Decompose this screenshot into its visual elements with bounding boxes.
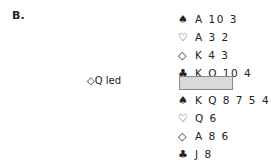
north-diamonds: ◇K 4 3: [178, 46, 252, 64]
club-icon: ♣: [178, 148, 195, 161]
south-diamonds: ◇A 8 6: [178, 127, 270, 145]
south-spades: ♠K Q 8 7 5 4: [178, 91, 270, 109]
south-hearts: ♡Q 6: [178, 109, 270, 127]
north-hand: ♠A 10 3 ♡A 3 2 ◇K 4 3 ♣K Q 10 4: [178, 10, 252, 82]
table-box: [179, 76, 233, 90]
south-clubs: ♣J 8: [178, 145, 270, 163]
heart-icon: ♡: [178, 112, 195, 125]
north-hearts: ♡A 3 2: [178, 28, 252, 46]
diamond-icon: ◇: [178, 130, 195, 143]
south-hand: ♠K Q 8 7 5 4 ♡Q 6 ◇A 8 6 ♣J 8: [178, 91, 270, 163]
diamond-icon: ◇: [178, 49, 195, 62]
north-spades: ♠A 10 3: [178, 10, 252, 28]
spade-icon: ♠: [178, 94, 195, 107]
opening-lead: ◇Q led: [87, 75, 121, 86]
heart-icon: ♡: [178, 31, 195, 44]
problem-label: B.: [12, 9, 25, 22]
spade-icon: ♠: [178, 13, 195, 26]
